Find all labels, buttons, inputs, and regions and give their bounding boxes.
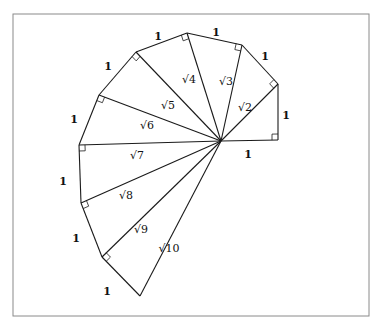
unit-length-label-7: 1 (70, 113, 78, 126)
unit-edge-7 (79, 145, 81, 203)
sqrt-length-label-6: √6 (140, 119, 154, 132)
unit-edge-2 (242, 45, 278, 84)
sqrt-length-label-5: √5 (161, 99, 175, 112)
figure-frame (13, 14, 369, 316)
unit-length-label-2: 1 (282, 109, 290, 122)
right-angle-marker-icon (132, 56, 140, 61)
spoke-3 (221, 45, 242, 141)
spoke-7 (79, 141, 221, 145)
sqrt-length-label-7: √7 (130, 149, 144, 162)
sqrt-length-label-9: √9 (134, 223, 148, 236)
sqrt-length-label-4: √4 (182, 73, 196, 86)
unit-length-label-5: 1 (154, 30, 162, 43)
unit-edge-5 (99, 52, 136, 95)
sqrt-length-label-2: √2 (238, 101, 252, 114)
right-angle-marker-icon (106, 253, 110, 261)
spoke-1 (221, 140, 278, 141)
spoke-8 (81, 141, 221, 203)
spoke-4 (187, 33, 221, 141)
sqrt-length-label-10: √10 (158, 242, 179, 255)
unit-length-label-3: 1 (261, 50, 269, 63)
unit-length-label-4: 1 (212, 26, 220, 39)
spoke-10 (140, 141, 221, 296)
unit-length-label-9: 1 (72, 232, 80, 245)
unit-length-label-10: 1 (103, 285, 111, 298)
unit-edge-6 (79, 95, 99, 145)
right-angle-marker-icon (270, 80, 274, 89)
right-angle-marker-icon (79, 145, 85, 151)
right-angle-marker-icon (272, 134, 278, 140)
unit-length-label-1: 1 (244, 148, 252, 161)
sqrt-length-label-8: √8 (119, 189, 133, 202)
unit-edge-8 (81, 203, 102, 257)
sqrt-length-label-3: √3 (219, 75, 233, 88)
unit-length-label-8: 1 (59, 175, 67, 188)
unit-length-label-6: 1 (104, 60, 112, 73)
spiral-diagram: 1111111111√2√3√4√5√6√7√8√9√10 (0, 0, 382, 331)
